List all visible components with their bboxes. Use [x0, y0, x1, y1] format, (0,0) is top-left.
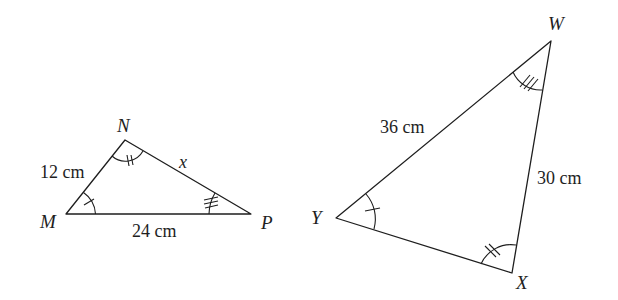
angle-mark-m	[84, 193, 96, 215]
triangle-mnp	[66, 140, 251, 214]
vertex-label-x: X	[515, 272, 529, 293]
triangle-mnp-outline	[66, 140, 251, 214]
triangle-wxy-outline	[336, 41, 551, 273]
triangle-wxy	[336, 41, 551, 273]
vertex-label-n: N	[116, 115, 131, 136]
angle-mark-n	[112, 151, 143, 166]
angle-mark-y	[365, 194, 380, 229]
vertex-label-p: P	[260, 212, 273, 233]
angle-mark-p	[204, 193, 218, 214]
vertex-label-y: Y	[311, 207, 324, 228]
side-label-mp: 24 cm	[132, 221, 177, 241]
vertex-label-w: W	[548, 13, 566, 34]
side-label-np: x	[178, 152, 187, 172]
angle-mark-w	[513, 72, 542, 91]
similar-triangles-diagram: M N P W X Y 12 cm x 24 cm 36 cm 30 cm	[0, 0, 618, 300]
side-label-mn: 12 cm	[40, 162, 85, 182]
side-label-yw: 36 cm	[380, 117, 425, 137]
angle-mark-x	[481, 244, 516, 264]
vertex-label-m: M	[39, 211, 57, 232]
side-label-wx: 30 cm	[537, 168, 582, 188]
